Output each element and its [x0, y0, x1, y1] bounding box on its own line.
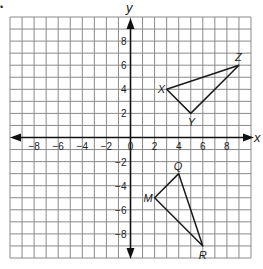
x-tick-label: 8 [224, 141, 230, 152]
vertex-label-q: Q [174, 160, 183, 172]
x-tick-label: −8 [28, 141, 40, 152]
vertex-label-y: Y [188, 116, 196, 128]
x-tick-label: 0 [128, 141, 134, 152]
x-tick-label: 4 [176, 141, 182, 152]
y-axis-arrow-down-icon [127, 248, 135, 259]
y-tick-label: 6 [121, 60, 127, 71]
x-axis-arrow-right-icon [243, 134, 254, 142]
axes: x y [10, 0, 261, 259]
x-axis-arrow-left-icon [10, 134, 21, 142]
vertex-label-x: X [157, 83, 166, 95]
vertex-label-r: R [199, 249, 207, 261]
coordinate-plane: x y −8−6−4−2024688642−2−4−6−8 XYZMQR [0, 0, 263, 269]
vertex-label-m: M [144, 192, 154, 204]
x-tick-label: 2 [152, 141, 158, 152]
x-tick-label: −6 [52, 141, 64, 152]
x-tick-label: 6 [200, 141, 206, 152]
x-tick-label: −4 [77, 141, 89, 152]
x-tick-label: −2 [101, 141, 113, 152]
vertex-label-z: Z [234, 51, 243, 63]
y-tick-label: −6 [115, 205, 127, 216]
y-axis-arrow-up-icon [127, 18, 135, 29]
triangles: XYZMQR [144, 51, 243, 261]
y-tick-label: 2 [121, 108, 127, 119]
y-tick-label: 8 [121, 36, 127, 47]
y-tick-label: 4 [121, 84, 127, 95]
y-tick-label: −8 [115, 229, 127, 240]
x-axis-label: x [253, 130, 261, 145]
y-tick-label: −2 [115, 157, 127, 168]
y-axis-label: y [125, 0, 134, 15]
y-tick-label: −4 [115, 181, 127, 192]
